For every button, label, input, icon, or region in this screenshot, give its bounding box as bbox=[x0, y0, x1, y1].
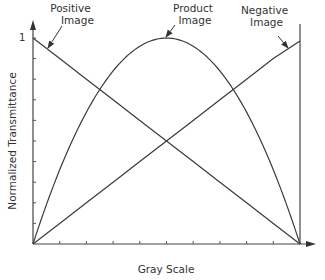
negative-label-line2: Image bbox=[241, 16, 288, 28]
positive-annotation-arrow bbox=[48, 26, 62, 48]
x-axis-label: Gray Scale bbox=[138, 263, 195, 275]
product-annotation-arrow bbox=[166, 25, 175, 37]
positive-label-line1: Positive bbox=[47, 2, 94, 14]
product-image-label: Product Image bbox=[173, 2, 213, 26]
x-axis-arrow-icon bbox=[306, 241, 316, 247]
y-axis bbox=[30, 20, 36, 244]
negative-image-label: Negative Image bbox=[241, 4, 288, 28]
positive-image-label: Positive Image bbox=[47, 2, 94, 26]
negative-annotation-arrow bbox=[278, 36, 288, 48]
product-label-line2: Image bbox=[173, 14, 213, 26]
product-label-line1: Product bbox=[173, 2, 213, 14]
positive-label-line2: Image bbox=[47, 14, 94, 26]
y-axis-arrow-icon bbox=[30, 20, 36, 30]
y-tick-label-1: 1 bbox=[19, 32, 25, 43]
chart-canvas bbox=[0, 0, 325, 280]
y-axis-label: Normalized Transmittance bbox=[6, 72, 18, 209]
negative-label-line1: Negative bbox=[241, 4, 288, 16]
